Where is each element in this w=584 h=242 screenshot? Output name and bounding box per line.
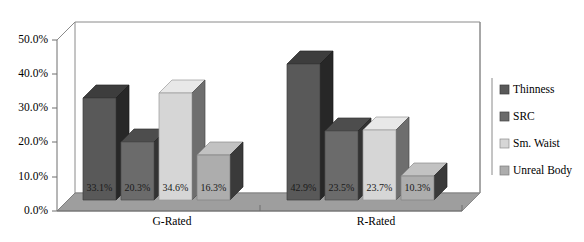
legend-swatch-icon — [500, 166, 509, 175]
bar-value-label: 23.5% — [329, 182, 355, 193]
bar-front-face — [287, 64, 320, 200]
legend-swatch-icon — [500, 139, 509, 148]
bar-chart-3d: 50.0% 40.0% 30.0% 20.0% 10.0% 0.0% 33.1%… — [0, 0, 584, 242]
bar-value-label: 10.3% — [405, 182, 431, 193]
depth-edge-top — [57, 22, 75, 40]
y-tick-label-40: 40.0% — [18, 67, 48, 79]
legend-item-thinness[interactable]: Thinness — [500, 83, 555, 95]
bar-g-rated-unreal-body[interactable]: 16.3% — [197, 142, 243, 200]
x-category-label-r-rated: R-Rated — [357, 215, 396, 227]
legend-item-unreal-body[interactable]: Unreal Body — [500, 164, 572, 177]
legend-swatch-icon — [500, 112, 509, 121]
bar-value-label: 23.7% — [367, 182, 393, 193]
y-tick-label-30: 30.0% — [18, 101, 48, 113]
bar-value-label: 16.3% — [201, 182, 227, 193]
legend: Thinness SRC Sm. Waist Unreal Body — [492, 78, 572, 177]
chart-container: 50.0% 40.0% 30.0% 20.0% 10.0% 0.0% 33.1%… — [0, 0, 584, 242]
y-tick-label-50: 50.0% — [18, 33, 48, 45]
y-tick-label-0: 0.0% — [24, 204, 48, 216]
legend-swatch-icon — [500, 85, 509, 94]
x-category-label-g-rated: G-Rated — [153, 215, 192, 227]
bar-value-label: 34.6% — [163, 182, 189, 193]
legend-item-sm-waist[interactable]: Sm. Waist — [500, 137, 561, 149]
legend-label: Unreal Body — [513, 164, 572, 177]
legend-label: SRC — [513, 110, 535, 122]
legend-label: Thinness — [513, 83, 555, 95]
legend-item-src[interactable]: SRC — [500, 110, 535, 122]
bar-value-label: 20.3% — [125, 182, 151, 193]
y-tick-label-10: 10.0% — [18, 170, 48, 182]
y-axis-ticks: 50.0% 40.0% 30.0% 20.0% 10.0% 0.0% — [18, 33, 57, 216]
legend-label: Sm. Waist — [513, 137, 561, 149]
bar-value-label: 42.9% — [291, 182, 317, 193]
y-tick-label-20: 20.0% — [18, 135, 48, 147]
bar-value-label: 33.1% — [87, 182, 113, 193]
